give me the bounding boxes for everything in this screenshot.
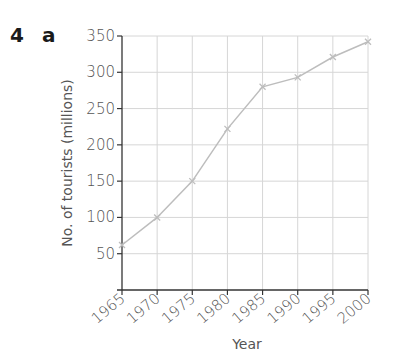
axes [117, 36, 368, 290]
x-tick-label: 1990 [263, 289, 304, 327]
x-tick-label: 1985 [228, 289, 269, 327]
y-tick-label: 150 [86, 172, 115, 190]
x-tick-label: 1995 [299, 289, 340, 327]
y-axis-ticks: 50100150200250300350 [86, 27, 122, 263]
x-tick-label: 1965 [88, 289, 129, 327]
x-tick-label: 1975 [158, 289, 199, 327]
y-tick-label: 50 [96, 245, 115, 263]
y-axis-title: No. of tourists (millions) [59, 79, 75, 247]
grid-lines [122, 36, 368, 290]
y-tick-label: 300 [86, 63, 115, 81]
y-tick-label: 100 [86, 208, 115, 226]
line-chart: 50100150200250300350 1965197019751980198… [0, 0, 404, 355]
x-axis-ticks: 19651970197519801985199019952000 [88, 289, 375, 327]
x-tick-label: 2000 [334, 289, 375, 327]
y-tick-label: 250 [86, 100, 115, 118]
x-tick-label: 1970 [123, 289, 164, 327]
y-tick-label: 200 [86, 136, 115, 154]
y-tick-label: 350 [86, 27, 115, 45]
x-axis-title: Year [231, 336, 262, 352]
x-tick-label: 1980 [193, 289, 234, 327]
